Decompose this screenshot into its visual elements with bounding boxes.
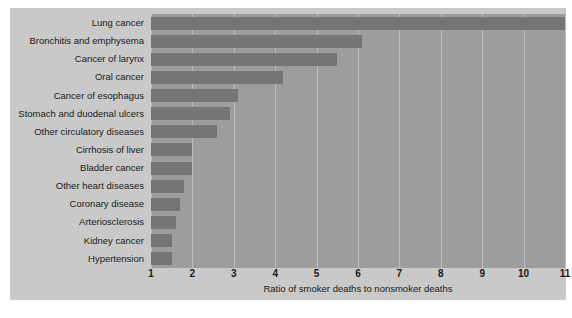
bar-row: Coronary disease [151,195,565,213]
category-label: Bronchitis and emphysema [29,33,144,48]
x-tick-label: 5 [314,268,320,279]
category-label: Hypertension [88,251,144,266]
bar [151,71,283,84]
x-tick-label: 9 [479,268,485,279]
bar [151,252,172,265]
bar-row: Cirrhosis of liver [151,141,565,159]
bar-row: Other heart diseases [151,177,565,195]
x-tick-label: 11 [560,268,571,279]
bar [151,17,565,30]
bar-row: Lung cancer [151,14,565,32]
bar-row: Cancer of esophagus [151,87,565,105]
category-label: Cancer of larynx [75,51,144,66]
bar [151,143,192,156]
bar-row: Bronchitis and emphysema [151,32,565,50]
plot-area: Lung cancerBronchitis and emphysemaCance… [151,14,565,268]
bar-row: Cancer of larynx [151,50,565,68]
category-label: Stomach and duodenal ulcers [18,106,144,121]
bar-row: Stomach and duodenal ulcers [151,105,565,123]
chart-figure: Lung cancerBronchitis and emphysemaCance… [10,8,566,300]
category-label: Cirrhosis of liver [76,142,144,157]
x-tick-label: 10 [518,268,529,279]
bar-row: Oral cancer [151,68,565,86]
category-label: Other heart diseases [56,178,144,193]
x-tick-label: 1 [148,268,154,279]
category-label: Cancer of esophagus [54,88,144,103]
x-tick-label: 4 [272,268,278,279]
x-tick-label: 8 [438,268,444,279]
gridline [565,14,566,268]
x-axis-ticks: 1234567891011 [151,268,565,282]
x-tick-label: 2 [190,268,196,279]
bar-row: Kidney cancer [151,232,565,250]
bar-row: Bladder cancer [151,159,565,177]
x-tick-label: 3 [231,268,237,279]
x-tick-label: 7 [397,268,403,279]
category-label: Lung cancer [92,15,144,30]
bar [151,107,230,120]
bar [151,125,217,138]
category-label: Bladder cancer [80,160,144,175]
bar-rows: Lung cancerBronchitis and emphysemaCance… [151,14,565,268]
category-label: Oral cancer [95,69,144,84]
x-axis-label: Ratio of smoker deaths to nonsmoker deat… [151,283,565,294]
bar-row: Hypertension [151,250,565,268]
bar-row: Other circulatory diseases [151,123,565,141]
bar [151,53,337,66]
bar [151,198,180,211]
bar-row: Arteriosclerosis [151,213,565,231]
category-label: Coronary disease [70,196,144,211]
bar [151,89,238,102]
category-label: Kidney cancer [84,233,144,248]
bar [151,234,172,247]
bar [151,180,184,193]
bar [151,35,362,48]
bar [151,162,192,175]
category-label: Arteriosclerosis [79,214,144,229]
bar [151,216,176,229]
x-tick-label: 6 [355,268,361,279]
category-label: Other circulatory diseases [34,124,144,139]
